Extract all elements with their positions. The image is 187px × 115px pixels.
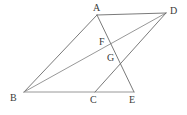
vertex-label-E: E [129,95,135,105]
vertex-label-D: D [170,6,177,16]
vertex-label-A: A [93,3,100,13]
vertex-label-C: C [90,95,97,105]
vertex-label-G: G [107,53,114,63]
segment-CD [95,13,166,92]
segment-AB [24,15,97,92]
segment-AD [97,13,166,15]
vertex-label-F: F [99,37,105,47]
segment-BD [24,13,166,92]
geometry-figure-canvas: A D F G B C E [0,0,187,115]
segments-group [24,13,166,92]
segment-AE [97,15,134,92]
vertex-label-B: B [10,93,17,103]
